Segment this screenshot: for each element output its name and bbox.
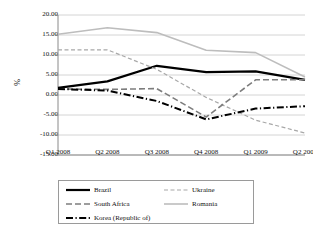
x-axis-tick-label: Q4 2008	[184, 148, 228, 156]
legend-item-label: South Africa	[94, 200, 130, 208]
x-axis-tick-label: Q2 2009	[283, 148, 313, 156]
x-axis-tick-label: Q1 2009	[234, 148, 278, 156]
x-axis-tick-label: Q3 2008	[135, 148, 179, 156]
legend-item[interactable]: Brazil	[65, 184, 111, 196]
legend-swatch-icon	[163, 200, 189, 208]
legend-item[interactable]: Korea (Republic of)	[65, 212, 150, 224]
legend-swatch-icon	[65, 214, 91, 222]
legend-item-label: Romania	[192, 200, 217, 208]
series-line-ukraine	[58, 50, 305, 133]
legend-swatch-icon	[163, 186, 189, 194]
legend-swatch-icon	[65, 200, 91, 208]
legend-item[interactable]: Ukraine	[163, 184, 215, 196]
line-chart: % 20.0015.0010.005.000.00-5.00-10.00-15.…	[0, 0, 313, 232]
legend-item-label: Ukraine	[192, 186, 215, 194]
legend-swatch-icon	[65, 186, 91, 194]
legend-item-label: Korea (Republic of)	[94, 214, 150, 222]
series-line-brazil	[58, 66, 305, 88]
x-axis-tick-label: Q2 2008	[85, 148, 129, 156]
legend-item[interactable]: South Africa	[65, 198, 130, 210]
series-line-south-africa	[58, 80, 305, 117]
x-axis-tick-label: Q1 2008	[36, 148, 80, 156]
legend-item[interactable]: Romania	[163, 198, 217, 210]
x-axis-tick-labels: Q1 2008Q2 2008Q3 2008Q4 2008Q1 2009Q2 20…	[60, 148, 305, 162]
legend-item-label: Brazil	[94, 186, 111, 194]
chart-legend: BrazilUkraineSouth AfricaRomaniaKorea (R…	[58, 180, 254, 224]
